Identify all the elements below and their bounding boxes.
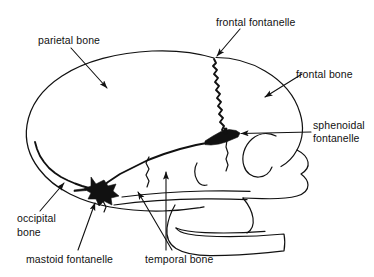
orbit-outline [243, 134, 276, 177]
leader-frontal-fontanelle [217, 29, 240, 56]
skull-fontanelle-diagram: frontal fontanelle parietal bone frontal… [0, 0, 374, 277]
label-sphenoidal-fontanelle-line2: fontanelle [313, 132, 360, 144]
leader-occipital-bone [40, 183, 64, 211]
leader-mastoid-fontanelle [78, 203, 95, 250]
sphenosquamosal-suture [226, 140, 228, 171]
label-frontal-fontanelle: frontal fontanelle [216, 16, 295, 28]
sphenoidal-fontanelle-spur [224, 128, 227, 134]
label-parietal-bone: parietal bone [38, 34, 100, 46]
label-frontal-bone: frontal bone [296, 68, 353, 80]
label-sphenoidal-fontanelle-line1: sphenoidal [313, 119, 365, 131]
label-temporal-bone: temporal bone [145, 253, 213, 265]
label-mastoid-fontanelle: mastoid fontanelle [26, 253, 113, 265]
leader-sphenoidal-fontanelle [241, 132, 311, 134]
coronal-suture [213, 59, 226, 133]
sphenoidal-fontanelle-shape [205, 130, 240, 146]
label-occipital-bone-line1: occipital [17, 212, 56, 224]
diagram-canvas: frontal fontanelle parietal bone frontal… [0, 0, 374, 277]
maxilla-outline [243, 198, 253, 233]
facial-profile-outline [243, 150, 308, 199]
cranial-vault-outline [26, 51, 214, 211]
label-occipital-bone-line2: bone [17, 226, 41, 238]
frontal-bone-outline [216, 58, 302, 167]
